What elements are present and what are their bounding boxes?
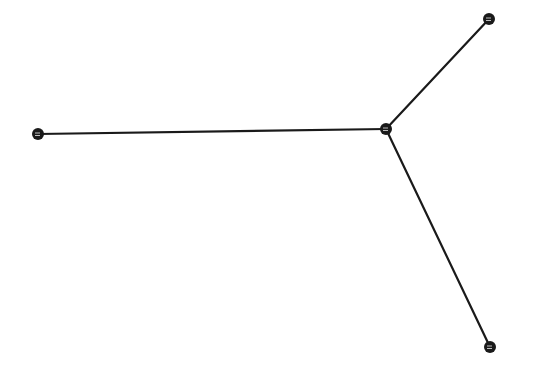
graph-canvas bbox=[0, 0, 538, 371]
edges-layer bbox=[38, 19, 490, 347]
edge-center-bottom-right bbox=[386, 129, 490, 347]
node-left bbox=[32, 128, 44, 140]
edge-center-left bbox=[38, 129, 386, 134]
node-center bbox=[380, 123, 392, 135]
node-dot-icon bbox=[32, 128, 44, 140]
node-dot-icon bbox=[380, 123, 392, 135]
node-dot-icon bbox=[483, 13, 495, 25]
edge-center-top-right bbox=[386, 19, 489, 129]
node-dot-icon bbox=[484, 341, 496, 353]
nodes-layer bbox=[32, 13, 496, 353]
node-bottom-right bbox=[484, 341, 496, 353]
node-top-right bbox=[483, 13, 495, 25]
